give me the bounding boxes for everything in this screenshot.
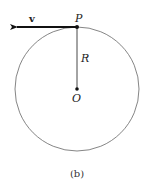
- circular-motion-diagram: v P R O (b): [0, 0, 143, 186]
- figure-caption: (b): [70, 168, 84, 179]
- point-p-dot: [75, 25, 79, 29]
- radius-label: R: [80, 52, 89, 65]
- velocity-label: v: [28, 13, 36, 24]
- center-o-dot: [75, 87, 79, 91]
- point-p-label: P: [74, 12, 83, 25]
- center-o-label: O: [72, 92, 81, 105]
